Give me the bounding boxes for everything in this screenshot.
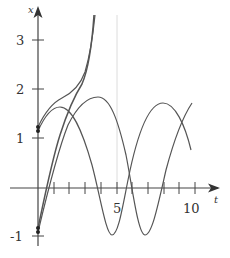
tick-label-neg1: -1 <box>10 229 23 244</box>
tick-label-5: 5 <box>113 201 121 216</box>
tick-label-3: 3 <box>16 33 24 48</box>
tick-label-10: 10 <box>183 201 200 216</box>
x-axis-label: t <box>214 194 219 205</box>
y-axis-label: x <box>28 4 34 15</box>
tick-label-2: 2 <box>16 82 24 97</box>
chart-canvas: x t 3 2 1 -1 5 10 <box>0 0 230 258</box>
tick-label-1: 1 <box>16 131 24 146</box>
